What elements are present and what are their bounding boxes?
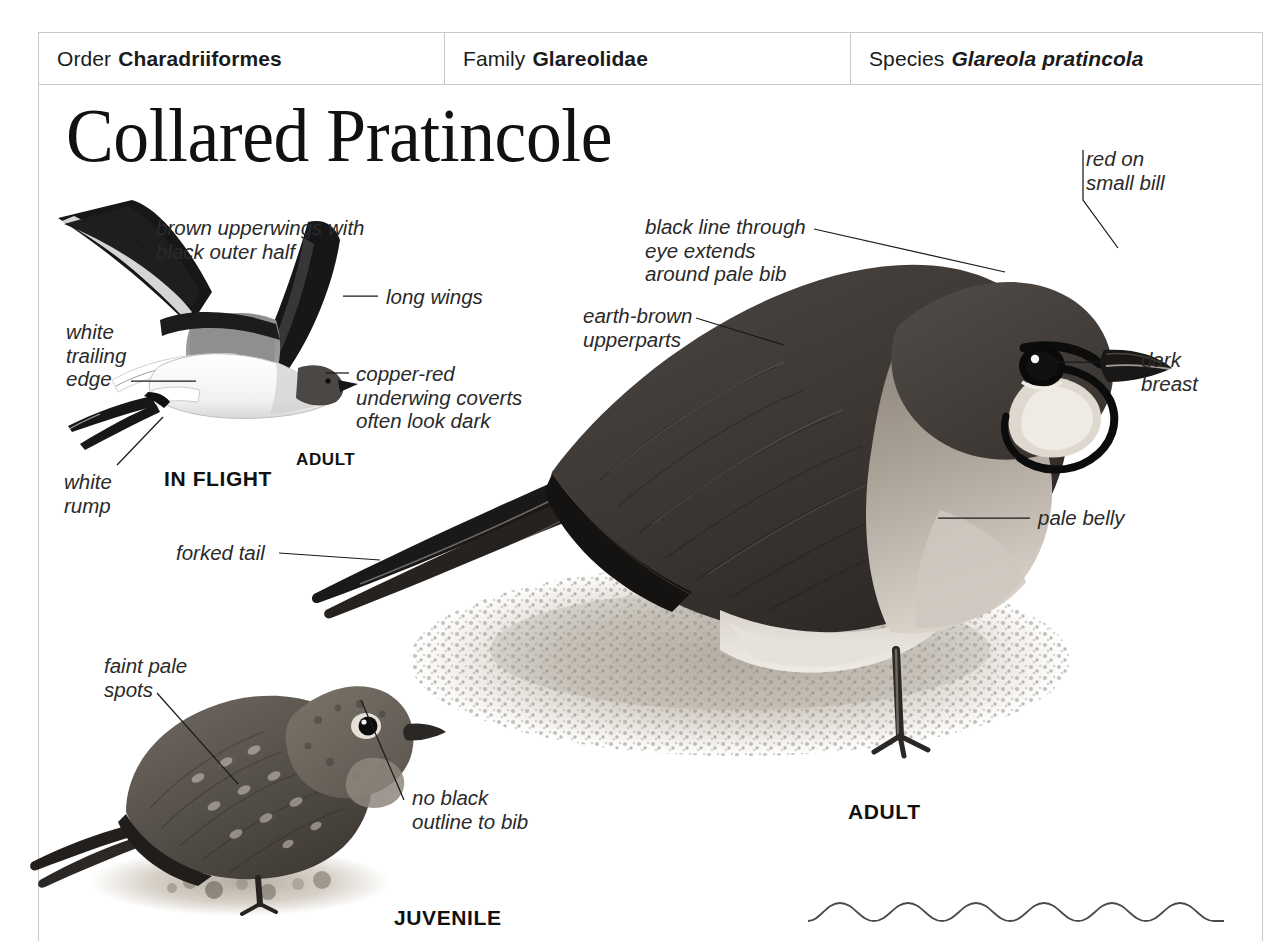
juvenile-caption: JUVENILE bbox=[394, 906, 502, 930]
juvenile-label-spots: faint pale spots bbox=[104, 654, 187, 701]
decorative-wave bbox=[806, 893, 1226, 933]
juvenile-label-bib: no black outline to bib bbox=[412, 786, 528, 833]
field-guide-page: Order Charadriiformes Family Glareolidae… bbox=[0, 0, 1265, 941]
juvenile-leader-lines bbox=[0, 0, 1265, 941]
